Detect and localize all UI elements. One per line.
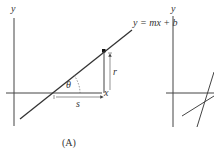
line-b-steep (197, 72, 214, 127)
y-axis-label-b: y (170, 3, 176, 14)
panel-b: y (166, 3, 214, 127)
angle-arc (74, 75, 80, 93)
line-b-shallow (182, 96, 214, 116)
panel-a-caption: (A) (62, 137, 76, 149)
slope-diagram: y x y = mx + b r s θ (A) y (0, 0, 214, 154)
panel-a: y x y = mx + b r s θ (A) (6, 3, 178, 149)
run-label: s (76, 98, 80, 109)
angle-label: θ (66, 79, 71, 90)
equation-label: y = mx + b (132, 17, 178, 28)
y-axis-label: y (10, 3, 16, 14)
rise-label: r (113, 66, 117, 77)
